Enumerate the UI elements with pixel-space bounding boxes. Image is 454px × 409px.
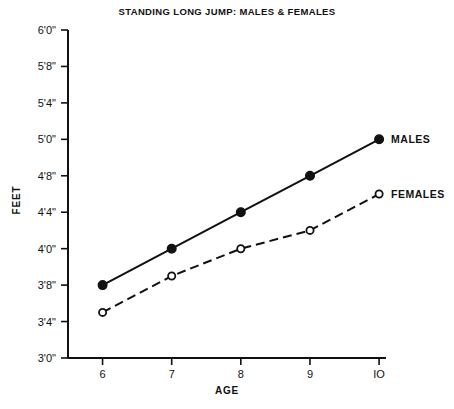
series-label-females: FEMALES [391, 188, 445, 200]
y-tick-label: 3'8" [38, 279, 56, 291]
data-point-females [168, 272, 175, 279]
y-axis-ticks [61, 30, 68, 358]
x-tick-label: 7 [169, 368, 175, 380]
x-tick-label: 9 [307, 368, 313, 380]
series-markers [98, 135, 383, 316]
y-axis-title: FEET [11, 186, 22, 215]
y-tick-label: 4'4" [38, 206, 56, 218]
y-axis-tick-labels: 3'0"3'4"3'8"4'0"4'4"4'8"5'0"5'4"5'8"6'0" [38, 24, 56, 364]
y-tick-label: 6'0" [38, 24, 56, 36]
chart-container: STANDING LONG JUMP: MALES & FEMALES 3'0"… [0, 0, 454, 409]
data-point-females [376, 190, 383, 197]
x-axis-title: AGE [215, 385, 239, 396]
y-tick-label: 4'0" [38, 243, 56, 255]
data-point-males [306, 171, 315, 180]
y-tick-label: 3'4" [38, 316, 56, 328]
x-tick-label: 6 [100, 368, 106, 380]
series-labels: MALESFEMALES [391, 133, 445, 200]
chart-plot-area: 3'0"3'4"3'8"4'0"4'4"4'8"5'0"5'4"5'8"6'0"… [0, 0, 454, 409]
x-tick-label: IO [373, 368, 385, 380]
y-tick-label: 4'8" [38, 170, 56, 182]
y-tick-label: 5'0" [38, 133, 56, 145]
y-tick-label: 5'4" [38, 97, 56, 109]
x-axis-tick-labels: 6789IO [100, 368, 386, 380]
data-point-males [167, 244, 176, 253]
x-tick-label: 8 [238, 368, 244, 380]
data-point-females [306, 227, 313, 234]
data-point-males [236, 208, 245, 217]
data-point-males [98, 281, 107, 290]
y-tick-label: 3'0" [38, 352, 56, 364]
y-tick-label: 5'8" [38, 60, 56, 72]
data-point-females [99, 309, 106, 316]
series-lines [103, 139, 380, 312]
data-point-males [375, 135, 384, 144]
x-axis-ticks [103, 358, 380, 365]
data-point-females [237, 245, 244, 252]
series-label-males: MALES [391, 133, 430, 145]
